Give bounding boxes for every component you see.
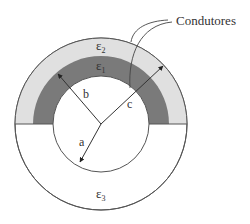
radius-b-label: b <box>83 87 89 101</box>
leader-line-outer <box>131 20 168 42</box>
conductors-label: Condutores <box>176 13 236 28</box>
coaxial-diagram: Condutores ε2 ε1 ε3 b c a <box>0 0 250 224</box>
radius-c-label: c <box>127 97 132 111</box>
radius-a-label: a <box>79 135 85 149</box>
